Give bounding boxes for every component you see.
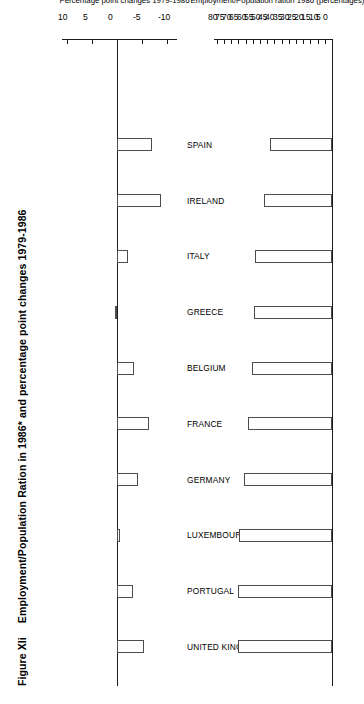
category-label: SPAIN — [187, 140, 212, 150]
axis-tick — [303, 39, 304, 44]
axis-tick — [318, 39, 319, 44]
bar — [244, 473, 333, 486]
axis-tick — [142, 39, 143, 44]
bar — [117, 138, 152, 151]
bar — [115, 306, 117, 319]
figure-title-text: Employment/Population Ration in 1986* an… — [16, 209, 28, 623]
axis-tick — [260, 39, 261, 44]
figure-title: Figure XIiEmployment/Population Ration i… — [16, 209, 28, 686]
value-axis-changes — [62, 39, 177, 40]
bar — [117, 473, 138, 486]
axis-tick-label: -5 — [133, 12, 159, 22]
axis-tick — [289, 39, 290, 44]
axis-tick-label: 5 — [83, 12, 109, 22]
axis-tick — [92, 39, 93, 44]
axis-caption: Employment/Population ration 1986 (perce… — [191, 0, 364, 5]
bar — [270, 138, 332, 151]
axis-tick — [217, 39, 218, 44]
bar — [117, 250, 128, 263]
bar — [117, 362, 134, 375]
axis-tick-label: 10 — [58, 12, 84, 22]
axis-tick — [253, 39, 254, 44]
bar — [117, 417, 149, 430]
category-label: ITALY — [187, 251, 210, 261]
axis-tick — [246, 39, 247, 44]
bar — [264, 194, 332, 207]
baseline — [332, 40, 333, 686]
axis-tick — [274, 39, 275, 44]
axis-caption: Percentage point changes 1979-1986 — [59, 0, 189, 5]
axis-tick — [224, 39, 225, 44]
axis-tick — [325, 39, 326, 44]
bar — [117, 640, 144, 653]
axis-tick — [310, 39, 311, 44]
axis-tick — [238, 39, 239, 44]
axis-tick — [167, 39, 168, 44]
bar — [255, 250, 332, 263]
axis-tick — [231, 39, 232, 44]
axis-tick — [267, 39, 268, 44]
bar — [238, 585, 332, 598]
bar — [117, 194, 161, 207]
axis-tick-label: 0 — [108, 12, 134, 22]
bar — [239, 529, 332, 542]
bar — [238, 640, 332, 653]
bar — [254, 306, 332, 319]
axis-tick-label: -10 — [158, 12, 184, 22]
panel-employment-population-ratio: 05101520253035404550556065707580Employme… — [214, 64, 332, 686]
axis-tick — [282, 39, 283, 44]
bar — [252, 362, 332, 375]
axis-tick — [296, 39, 297, 44]
axis-tick-label: 80 — [208, 12, 234, 22]
axis-tick — [67, 39, 68, 44]
panel-percentage-point-changes: -10-50510Percentage point changes 1979-1… — [62, 64, 177, 686]
bar — [117, 585, 133, 598]
bar — [117, 529, 120, 542]
figure-number: Figure XIi — [16, 637, 28, 686]
bar — [248, 417, 332, 430]
